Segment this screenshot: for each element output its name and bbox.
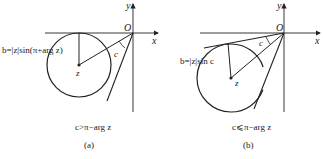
- angle-arc: [266, 37, 270, 44]
- angle-arc: [119, 41, 125, 48]
- center-label: z: [75, 68, 80, 78]
- condition-label: c>π−arg z: [75, 122, 111, 132]
- angle-label: c: [259, 38, 263, 48]
- origin-label: O: [276, 22, 283, 33]
- x-axis-label: x: [151, 35, 157, 46]
- origin-to-center-line: [79, 33, 133, 65]
- panel-b: y x O c z b=|z|sin c c⩽π−arg z (b): [180, 0, 320, 150]
- angle-label: c: [114, 49, 118, 59]
- radius-formula: b=|z|sin c: [180, 56, 214, 66]
- radius-formula: b=|z|sin(π+arg z): [2, 45, 63, 55]
- center-point: [229, 76, 232, 79]
- x-axis-label: x: [314, 35, 320, 46]
- y-axis-label: y: [276, 0, 282, 11]
- radius-line: [228, 43, 231, 78]
- condition-label: c⩽π−arg z: [232, 122, 271, 132]
- center-label: z: [234, 78, 239, 88]
- y-axis-label: y: [125, 0, 131, 11]
- caption: (a): [84, 140, 94, 150]
- upper-tangent-line: [204, 33, 284, 48]
- caption: (b): [243, 140, 254, 150]
- panel-a: y x O c z b=|z|sin(π+arg z) c>π−arg z (a…: [2, 0, 158, 150]
- origin-to-center-line: [231, 33, 284, 78]
- diagram-canvas: y x O c z b=|z|sin(π+arg z) c>π−arg z (a…: [0, 0, 323, 159]
- origin-label: O: [124, 22, 131, 33]
- center-point: [77, 63, 80, 66]
